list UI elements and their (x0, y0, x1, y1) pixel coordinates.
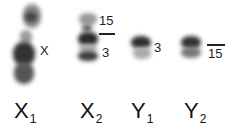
chromosome-x1 (0, 0, 60, 90)
annotation-x2-3: 3 (102, 45, 109, 60)
label-y1: Y1 (131, 100, 153, 125)
annotation-y1: 3 (154, 40, 161, 55)
label-y2: Y2 (184, 100, 206, 125)
annotation-x1: X (40, 43, 49, 58)
marker-line-x2 (99, 33, 115, 35)
annotation-y2: 15 (208, 46, 222, 61)
label-x2: X2 (80, 100, 102, 125)
annotation-x2-15: 15 (99, 13, 113, 28)
label-x1: X1 (14, 100, 36, 125)
